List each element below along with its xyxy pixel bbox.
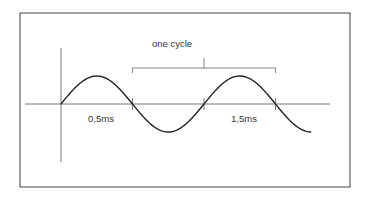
one-cycle-label: one cycle (152, 38, 192, 49)
tick-label-0-5ms: 0,5ms (88, 113, 114, 124)
sine-wave-diagram: one cycle 0,5ms 1,5ms (0, 0, 367, 198)
one-cycle-bracket (133, 58, 276, 73)
tick-label-1-5ms: 1,5ms (231, 113, 257, 124)
